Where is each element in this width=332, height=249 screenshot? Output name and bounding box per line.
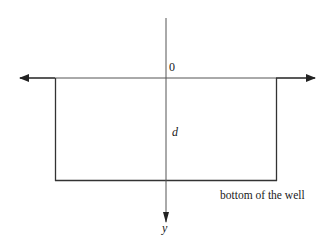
depth-label: d [172,125,179,139]
y-axis-label: y [161,221,168,235]
origin-label: 0 [169,60,175,74]
well-diagram: 0 d y bottom of the well [0,0,332,249]
bottom-of-well-label: bottom of the well [220,189,305,201]
